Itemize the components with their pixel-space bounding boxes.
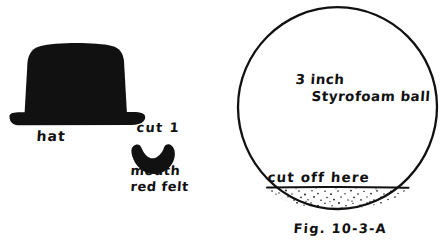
ball-size-line-1: 3 inch — [295, 72, 431, 87]
hat-shape — [9, 43, 145, 125]
stipple-texture — [268, 188, 408, 209]
mouth-material-label: mouth red felt — [130, 164, 188, 194]
cut-off-line — [267, 187, 409, 188]
figure-root: hat cut 1 mouth red felt 3 inch Styrofoa… — [0, 0, 446, 242]
ball-size-label: 3 inch Styrofoam ball — [295, 72, 430, 104]
mouth-material-line-2: red felt — [130, 180, 189, 195]
hat-label: hat — [36, 129, 66, 145]
figure-caption: Fig. 10-3-A — [293, 222, 387, 237]
ball-size-line-2: Styrofoam ball — [311, 89, 431, 104]
mouth-material-line-1: mouth — [130, 164, 189, 179]
figure-artwork — [0, 0, 446, 242]
mouth-cut-label: cut 1 — [136, 121, 180, 136]
cut-off-label: cut off here — [267, 170, 370, 185]
